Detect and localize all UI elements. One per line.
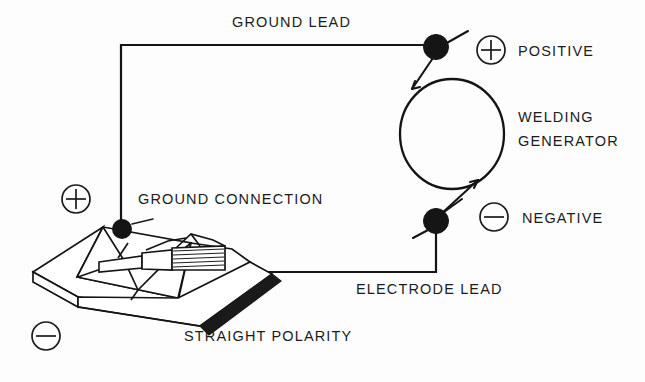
workpiece-positive-symbol (62, 185, 90, 213)
workpiece-negative-symbol (32, 322, 60, 350)
positive-terminal-symbol (477, 36, 505, 64)
label-straight-polarity: STRAIGHT POLARITY (184, 328, 352, 344)
holder-grip (172, 246, 225, 270)
negative-terminal-dot (424, 209, 449, 234)
positive-terminal-whisker (445, 31, 468, 44)
ground-connection-leader (132, 219, 153, 224)
label-ground-connection: GROUND CONNECTION (138, 191, 324, 207)
label-ground-lead: GROUND LEAD (232, 14, 351, 30)
negative-terminal-whisker-upper (444, 199, 462, 212)
label-welding-generator-line2: GENERATOR (518, 133, 619, 149)
label-positive: POSITIVE (518, 43, 594, 59)
ground-connection-dot (112, 219, 132, 239)
label-welding-generator-line1: WELDING (518, 109, 594, 125)
welding-generator-circle (400, 79, 504, 189)
holder-collar (142, 250, 172, 270)
negative-terminal-whisker-lower (413, 230, 428, 238)
diagram-canvas: GROUND LEAD POSITIVE WELDING GENERATOR N… (0, 0, 645, 382)
welding-polarity-diagram: GROUND LEAD POSITIVE WELDING GENERATOR N… (0, 0, 645, 382)
label-electrode-lead: ELECTRODE LEAD (356, 281, 503, 297)
positive-terminal-dot (424, 35, 449, 60)
negative-terminal-symbol (480, 203, 508, 231)
label-negative: NEGATIVE (522, 210, 603, 226)
